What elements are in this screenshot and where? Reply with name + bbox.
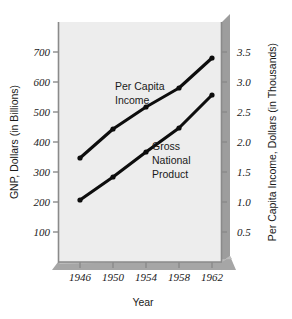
economic-indicators-line-chart: 100 200 300 400 500 600 700 0.5 1.0 1.5 … [0,0,292,319]
y-axis-left-title: GNP, Dollars (in Billions) [8,85,20,199]
x-tick-label-1958: 1958 [168,271,191,283]
y2-tick-label-1-0: 1.0 [237,196,251,208]
y-tick-label-600: 600 [34,76,51,88]
y2-tick-label-1-5: 1.5 [237,166,251,178]
y-tick-label-500: 500 [34,106,51,118]
y-axis-left-tick-labels: 100 200 300 400 500 600 700 [33,46,51,238]
data-point-gnp-1946 [77,197,82,202]
y-tick-label-300: 300 [33,166,51,178]
y2-tick-label-3-5: 3.5 [236,46,251,58]
data-point-per-capita-1962 [209,55,214,60]
data-point-gnp-1962 [209,92,214,97]
x-axis-tick-labels: 1946 1950 1954 1958 1962 [69,271,224,283]
data-point-per-capita-1950 [110,126,115,131]
annotation-gnp-line1: Gross [152,140,180,152]
y-tick-label-400: 400 [34,136,51,148]
y-tick-label-200: 200 [34,196,51,208]
x-tick-label-1954: 1954 [135,271,158,283]
y2-tick-label-2-5: 2.5 [237,106,251,118]
plot-area-background [58,22,222,262]
annotation-gnp-line3: Product [152,168,188,180]
x-tick-label-1962: 1962 [201,271,224,283]
data-point-per-capita-1958 [176,85,181,90]
y-axis-right-title: Per Capita Income, Dollars (in Thousands… [266,43,278,241]
y2-tick-label-3-0: 3.0 [236,76,251,88]
data-point-gnp-1950 [110,174,115,179]
annotation-per-capita-income-line1: Per Capita [115,80,165,92]
y-axis-right-tick-labels: 0.5 1.0 1.5 2.0 2.5 3.0 3.5 [236,46,251,238]
y2-tick-label-0-5: 0.5 [237,226,251,238]
x-tick-label-1946: 1946 [69,271,92,283]
chart-container: 100 200 300 400 500 600 700 0.5 1.0 1.5 … [0,0,292,319]
y-tick-label-700: 700 [34,46,51,58]
data-point-gnp-1958 [176,125,181,130]
data-point-gnp-1954 [143,149,148,154]
annotation-per-capita-income-line2: Income [115,94,150,106]
y2-tick-label-2-0: 2.0 [237,136,251,148]
data-point-per-capita-1946 [77,155,82,160]
x-axis-title: Year [132,296,154,308]
annotation-gnp-line2: National [152,154,191,166]
x-tick-label-1950: 1950 [102,271,125,283]
shadow-right-slab [222,14,230,262]
y-tick-label-100: 100 [34,226,51,238]
